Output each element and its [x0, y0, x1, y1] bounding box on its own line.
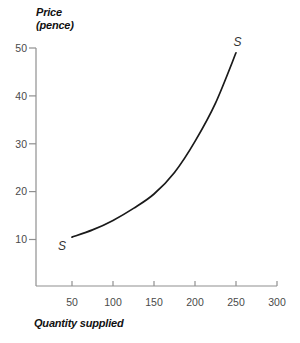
x-tick-label: 150 — [145, 296, 163, 308]
axes — [36, 48, 277, 286]
x-tick-label: 200 — [186, 296, 204, 308]
x-tick-label: 50 — [66, 296, 78, 308]
curve-label-s: S — [58, 239, 66, 253]
x-tick-label: 300 — [268, 296, 286, 308]
plot-area: 102030405050100150200250300SS — [0, 0, 300, 343]
y-tick-label: 10 — [15, 233, 27, 245]
supply-curve-chart: Price (pence) 10203040505010015020025030… — [0, 0, 300, 343]
y-tick-label: 30 — [15, 138, 27, 150]
y-axis-title: Price (pence) — [36, 6, 74, 32]
y-tick-label: 50 — [15, 42, 27, 54]
supply-curve — [72, 53, 236, 237]
y-tick-label: 40 — [15, 90, 27, 102]
x-tick-label: 250 — [227, 296, 245, 308]
x-tick-label: 100 — [104, 296, 122, 308]
x-axis-title: Quantity supplied — [34, 317, 124, 329]
y-tick-label: 20 — [15, 185, 27, 197]
curve-label-s: S — [234, 35, 242, 49]
